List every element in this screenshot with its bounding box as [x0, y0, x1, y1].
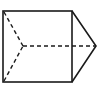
hidden-edges — [4, 12, 96, 81]
hidden-edge-bottom — [4, 46, 23, 81]
hidden-edge-top — [4, 12, 23, 46]
prism-diagram — [0, 0, 105, 86]
